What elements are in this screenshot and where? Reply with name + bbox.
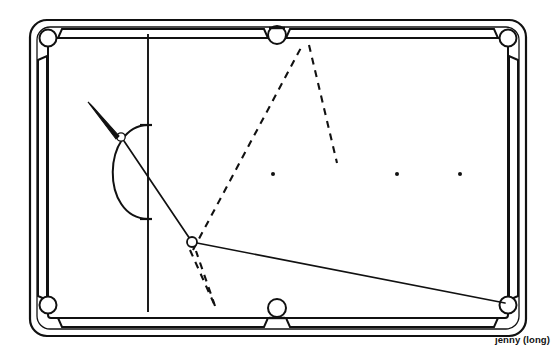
spot-marker-2 [395,172,399,176]
object-ball [187,237,197,247]
cushion-right [509,56,518,300]
cushion-bottom-left [58,318,268,327]
cushion-top-left [58,29,268,38]
billiards-diagram: jenny (long) [0,0,556,360]
diagram-caption: jenny (long) [440,334,550,345]
pool-table-illustration [0,0,556,360]
pocket-top-right-corner [500,30,517,47]
pocket-bottom-side [268,299,286,317]
cushion-top-right [286,29,498,38]
pocket-top-left-corner [40,30,57,47]
pocket-bottom-left-corner [40,297,57,314]
cushion-bottom-right [286,318,498,327]
spot-marker-1 [271,172,275,176]
table-frame [30,20,526,336]
spot-marker-3 [458,172,462,176]
cushion-left [38,56,47,300]
cushion-face-boundary [48,38,508,318]
pocket-bottom-right-corner [500,297,517,314]
